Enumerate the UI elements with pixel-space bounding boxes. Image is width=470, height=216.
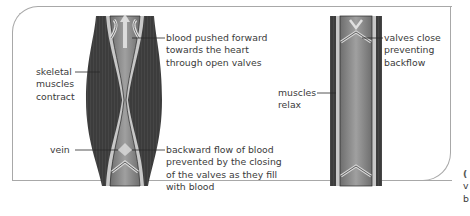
label-valves-close: valves close preventing backflow (384, 32, 441, 69)
cropped-line-3: b (463, 193, 469, 205)
cropped-line-2: v (463, 180, 469, 192)
label-blood-pushed-forward: blood pushed forward towards the heart t… (166, 32, 267, 69)
cropped-line-1: ( (463, 168, 469, 180)
right-vein (336, 16, 376, 186)
label-skeletal-muscles-contract: skeletal muscles contract (36, 66, 75, 103)
label-muscles-relax: muscles relax (278, 87, 316, 112)
cropped-corner-text: ( v b (463, 168, 469, 205)
label-vein: vein (50, 144, 70, 156)
label-backward-flow-prevented: backward flow of blood prevented by the … (166, 144, 282, 193)
